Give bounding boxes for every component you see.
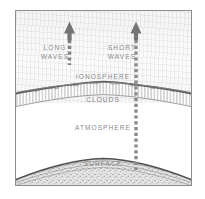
label-long-waves-line2: WAVES [34,52,76,61]
label-short-waves: SHORT WAVES [100,43,144,61]
label-short-waves-line2: WAVES [100,52,144,61]
label-ionosphere: IONOSPHERE [50,73,156,82]
label-short-waves-line1: SHORT [100,43,144,52]
label-long-waves: LONG WAVES [34,43,76,61]
atmosphere-diagram: LONG WAVES SHORT WAVES IONOSPHERE CLOUDS… [0,0,205,199]
short-waves-arrowhead [131,22,142,41]
label-long-waves-line1: LONG [34,43,76,52]
label-atmosphere: ATMOSPHERE [46,124,160,133]
label-surface: SURFACE [54,160,152,169]
figure-frame: LONG WAVES SHORT WAVES IONOSPHERE CLOUDS… [15,10,192,186]
long-waves-arrowhead [64,22,75,41]
label-clouds: CLOUDS [62,96,144,105]
